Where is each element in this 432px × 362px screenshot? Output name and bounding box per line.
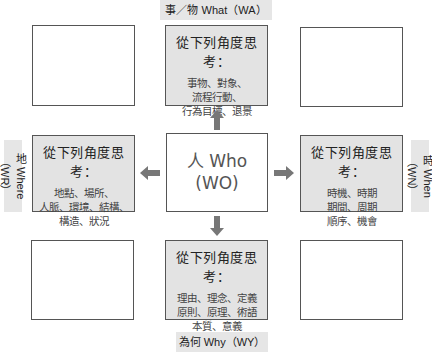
why-box-lines: 理由、理念、定義 原則、原理、術語 本質、意義 — [166, 291, 267, 333]
where-box: 從下列角度思考： 地點、場所、 人脈、環境、結構、 構造、狀況 — [32, 135, 135, 212]
what-box-title: 從下列角度思考： — [166, 32, 267, 70]
why-line-2: 原則、原理、術語 — [166, 305, 267, 319]
arrow-up-icon — [210, 110, 224, 130]
when-box-title: 從下列角度思考： — [301, 142, 402, 180]
arrow-right-icon — [274, 166, 294, 180]
label-where: 地 Where（WR） — [4, 140, 22, 212]
where-box-lines: 地點、場所、 人脈、環境、結構、 構造、狀況 — [33, 186, 134, 228]
when-line-1: 時機、時期 — [301, 186, 402, 200]
arrow-left-icon — [140, 166, 160, 180]
what-line-2: 流程行動、 — [166, 90, 267, 104]
where-line-1: 地點、場所、 — [33, 186, 134, 200]
label-when: 時 When（WN） — [411, 140, 429, 212]
empty-box-top-left — [32, 25, 135, 106]
when-box: 從下列角度思考： 時機、時期 期間、周期 順序、機會 — [300, 135, 403, 212]
where-line-3: 構造、狀況 — [33, 214, 134, 228]
who-label: 人 Who (WO) — [167, 150, 267, 194]
label-what: 事／物 What（WA） — [160, 0, 272, 20]
what-line-1: 事物、對象、 — [166, 76, 267, 90]
empty-box-bottom-right — [300, 240, 403, 320]
what-box: 從下列角度思考： 事物、對象、 流程行動、 行為目標、退景 — [165, 25, 268, 106]
empty-box-bottom-left — [31, 240, 134, 320]
why-box-title: 從下列角度思考： — [166, 247, 267, 285]
who-line-2: (WO) — [167, 172, 267, 194]
when-line-2: 期間、周期 — [301, 200, 402, 214]
arrow-down-icon — [210, 216, 224, 236]
why-line-3: 本質、意義 — [166, 319, 267, 333]
label-why: 為何 Why（WY） — [176, 332, 268, 352]
where-line-2: 人脈、環境、結構、 — [33, 200, 134, 214]
why-line-1: 理由、理念、定義 — [166, 291, 267, 305]
who-box: 人 Who (WO) — [166, 133, 268, 212]
when-box-lines: 時機、時期 期間、周期 順序、機會 — [301, 186, 402, 228]
empty-box-top-right — [300, 27, 403, 107]
who-line-1: 人 Who — [167, 150, 267, 172]
where-box-title: 從下列角度思考： — [33, 142, 134, 180]
when-line-3: 順序、機會 — [301, 214, 402, 228]
why-box: 從下列角度思考： 理由、理念、定義 原則、原理、術語 本質、意義 — [165, 240, 268, 320]
